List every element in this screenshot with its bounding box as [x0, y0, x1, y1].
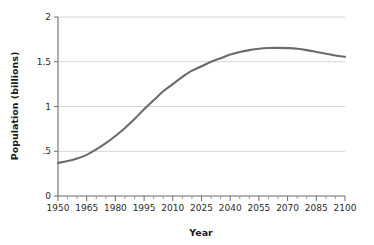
chart-container: 0.511.52 1950196519801995201020252040205… [0, 0, 374, 245]
x-tick-label: 2085 [305, 203, 328, 213]
x-tick-label: 2070 [276, 203, 299, 213]
x-tick-label: 1965 [75, 203, 98, 213]
y-tick-label: .5 [42, 146, 51, 156]
y-tick-label: 1.5 [37, 57, 51, 67]
y-axis-title: Population (billions) [9, 52, 20, 161]
x-axis-tick-labels: 1950196519801995201020252040205520702085… [47, 203, 357, 213]
y-axis-tick-labels: 0.511.52 [37, 12, 52, 201]
x-tick-label: 2025 [190, 203, 213, 213]
y-tick-label: 2 [45, 12, 51, 22]
x-tick-label: 1980 [104, 203, 127, 213]
x-tick-label: 2100 [334, 203, 357, 213]
y-tick-label: 0 [45, 191, 51, 201]
x-tick-label: 2055 [247, 203, 270, 213]
x-axis-title: Year [188, 227, 213, 238]
x-tick-label: 1950 [47, 203, 70, 213]
grid-lines [58, 17, 345, 151]
y-axis-ticks [54, 17, 58, 196]
y-tick-label: 1 [45, 102, 51, 112]
x-axis-ticks [58, 196, 345, 201]
x-tick-label: 1995 [133, 203, 156, 213]
population-line-chart: 0.511.52 1950196519801995201020252040205… [0, 0, 374, 245]
population-series-line [58, 48, 345, 163]
x-tick-label: 2040 [219, 203, 242, 213]
x-tick-label: 2010 [161, 203, 184, 213]
